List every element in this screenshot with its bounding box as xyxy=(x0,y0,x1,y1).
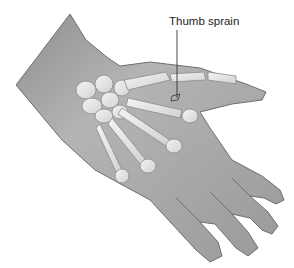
carpal-bone xyxy=(76,81,96,99)
knuckle xyxy=(140,159,156,173)
knuckle xyxy=(115,169,129,183)
hand-illustration: Thumb sprain xyxy=(0,0,294,268)
annotation-thumb-sprain: Thumb sprain xyxy=(169,15,239,27)
thumb-proximal-phalanx xyxy=(170,72,206,82)
knuckle xyxy=(166,139,182,153)
carpal-bone xyxy=(95,75,113,93)
hand-skeleton-diagram xyxy=(0,0,294,268)
hand-silhouette xyxy=(16,14,284,262)
knuckle xyxy=(182,109,198,123)
